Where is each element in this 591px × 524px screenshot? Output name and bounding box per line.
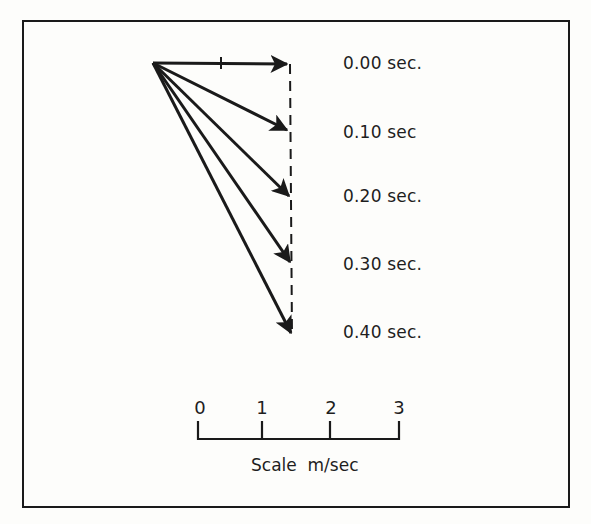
time-label-3: 0.30 sec.	[343, 254, 422, 274]
time-label-1: 0.10 sec	[343, 122, 417, 142]
scale-label-0: 0	[194, 397, 205, 418]
time-label-0: 0.00 sec.	[343, 53, 422, 73]
time-label-4: 0.40 sec.	[343, 322, 422, 342]
velocity-vectors	[153, 63, 291, 333]
vertical-component-dashed-line	[290, 64, 292, 335]
scale-label-1: 1	[256, 397, 267, 418]
vector-arrow-t1	[153, 63, 287, 130]
scale-label-2: 2	[325, 397, 336, 418]
time-label-2: 0.20 sec.	[343, 186, 422, 206]
scale-label-3: 3	[393, 397, 404, 418]
scale-title: Scale m/sec	[251, 455, 359, 475]
scale-bar	[198, 421, 400, 440]
vector-arrow-t4	[153, 63, 291, 333]
vector-diagram	[0, 0, 591, 524]
vector-arrow-t3	[153, 63, 290, 262]
vector-arrow-t2	[153, 63, 289, 196]
